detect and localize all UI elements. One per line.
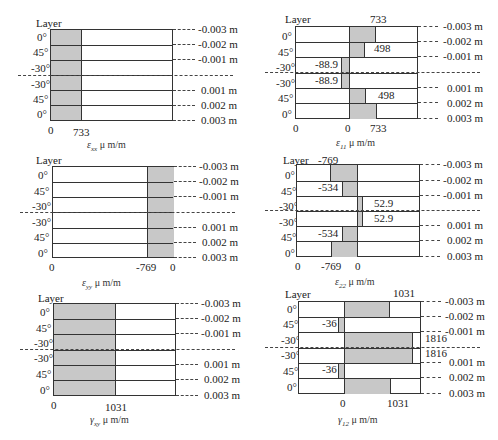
layer-label: 45° xyxy=(281,231,296,243)
value-label: 733 xyxy=(370,13,387,25)
strain-bar xyxy=(344,348,413,363)
z-label: 0.001 m xyxy=(447,219,483,231)
layer-label: 45° xyxy=(33,46,48,58)
value-label: -534 xyxy=(318,181,338,193)
strain-bar xyxy=(344,302,390,317)
z-label: -0.001 m xyxy=(199,190,239,202)
panel-gxy: Layer 0° 45° -30° -30° 45° 0° -0.003 m -… xyxy=(0,290,250,440)
value-label: 1031 xyxy=(387,397,409,409)
axis-title: γxy μ m/m xyxy=(90,414,129,428)
layer-label: 0° xyxy=(40,306,50,318)
strain-bar xyxy=(342,226,358,241)
z-label: -0.003 m xyxy=(443,158,483,170)
value-label: 52.9 xyxy=(374,212,393,224)
strain-bar xyxy=(341,57,350,73)
strain-bar xyxy=(344,378,391,394)
z-label: -0.003 m xyxy=(443,20,483,32)
layer-label: 45° xyxy=(36,368,51,380)
z-label: -0.001 m xyxy=(443,189,483,201)
layer-label: 45° xyxy=(281,185,296,197)
strain-bar xyxy=(357,211,363,226)
value-label: -88.9 xyxy=(315,74,338,86)
strain-bar xyxy=(349,27,376,42)
layer-label: -30° xyxy=(31,78,50,90)
z-label: 0.003 m xyxy=(449,387,485,399)
layer-label: 45° xyxy=(33,93,48,105)
layer-label: 45° xyxy=(34,231,49,243)
panel-g12: Layer 1031 0° 45° -30° -30° 45° 0° -36 1… xyxy=(250,290,498,440)
z-label: -0.002 m xyxy=(198,38,238,50)
layer-header: Layer xyxy=(36,17,62,29)
value-label: -88.9 xyxy=(315,58,338,70)
axis-zero: 0 xyxy=(295,260,301,272)
value-label: -534 xyxy=(318,227,338,239)
strain-bar xyxy=(349,42,365,57)
axis-zero: 0 xyxy=(49,261,55,273)
axis-zero: 0 xyxy=(48,124,54,136)
z-label: 0.003 m xyxy=(447,112,483,124)
z-label: -0.002 m xyxy=(443,174,483,186)
value-label: 1031 xyxy=(105,401,127,413)
panel-eyy: Layer 0° 45° -30° -30° 45° 0° -0.003 m -… xyxy=(0,145,250,295)
z-label: 0.002 m xyxy=(447,97,483,109)
strain-bar xyxy=(338,317,345,332)
layer-label: 45° xyxy=(278,92,293,104)
axis-title: γ12 μ m/m xyxy=(338,414,378,428)
layer-label: -30° xyxy=(32,200,51,212)
layer-header: Layer xyxy=(285,13,311,25)
strain-bar xyxy=(342,181,358,196)
z-label: 0.001 m xyxy=(201,84,237,96)
value-label: -36 xyxy=(322,363,337,375)
z-label: 0.002 m xyxy=(201,99,237,111)
axis-zero: 0 xyxy=(345,122,351,134)
layer-label: 0° xyxy=(282,30,292,42)
z-label: -0.003 m xyxy=(198,23,238,35)
z-label: -0.002 m xyxy=(201,312,241,324)
strain-bar xyxy=(349,88,366,103)
strain-bar xyxy=(344,332,413,348)
layer-label: 45° xyxy=(283,318,298,330)
layer-header: Layer xyxy=(285,288,311,300)
axis-zero: 0 xyxy=(170,261,176,273)
strain-bar xyxy=(338,363,345,378)
z-label: 0.002 m xyxy=(202,236,238,248)
layer-label: 45° xyxy=(278,46,293,58)
z-label: -0.002 m xyxy=(445,310,485,322)
z-label: -0.003 m xyxy=(445,295,485,307)
z-label: 0.003 m xyxy=(447,250,483,262)
layer-label: 45° xyxy=(34,185,49,197)
z-label: -0.001 m xyxy=(443,50,483,62)
value-label: -769 xyxy=(136,261,156,273)
strain-bar xyxy=(349,103,377,119)
layer-label: -30° xyxy=(34,352,53,364)
value-label: 733 xyxy=(73,126,90,138)
value-label: 1816 xyxy=(425,347,447,359)
value-label: 1031 xyxy=(393,287,415,299)
axis-zero: 0 xyxy=(355,260,361,272)
layer-label: 0° xyxy=(282,108,292,120)
axis-title: ε22 μ m/m xyxy=(335,276,375,290)
value-label: -769 xyxy=(321,260,341,272)
z-label: -0.001 m xyxy=(198,53,238,65)
layer-header: Layer xyxy=(36,154,62,166)
z-label: -0.001 m xyxy=(445,325,485,337)
z-label: -0.001 m xyxy=(201,327,241,339)
strain-bar xyxy=(331,241,358,257)
layer-label: 0° xyxy=(37,108,47,120)
layer-label: -30° xyxy=(34,337,53,349)
z-label: 0.002 m xyxy=(449,371,485,383)
z-label: 0.001 m xyxy=(447,82,483,94)
z-label: 0.001 m xyxy=(204,358,240,370)
layer-label: 0° xyxy=(38,169,48,181)
value-label: 498 xyxy=(378,89,395,101)
z-label: -0.003 m xyxy=(199,160,239,172)
value-label: -36 xyxy=(322,317,337,329)
z-label: -0.002 m xyxy=(199,175,239,187)
value-label: 52.9 xyxy=(374,197,393,209)
layer-label: 0° xyxy=(40,384,50,396)
layer-label: 0° xyxy=(287,303,297,315)
z-label: 0.001 m xyxy=(449,356,485,368)
strain-bar xyxy=(341,73,350,88)
layer-label: -30° xyxy=(276,77,295,89)
layer-label: 0° xyxy=(287,381,297,393)
